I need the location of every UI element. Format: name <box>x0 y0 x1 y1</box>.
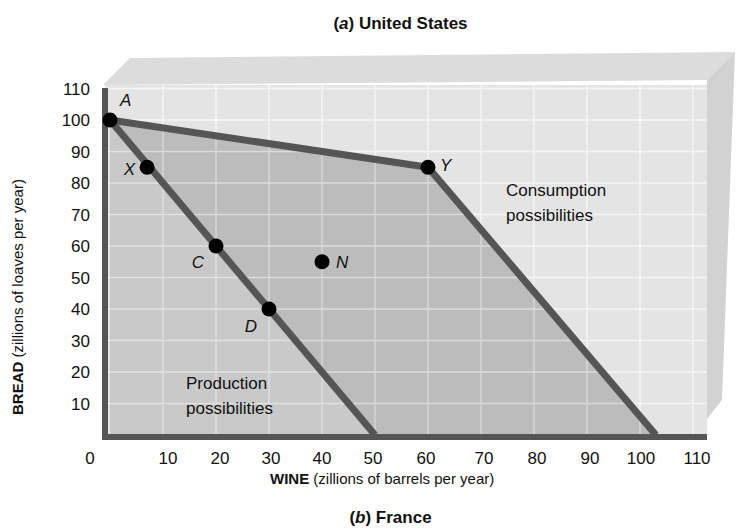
x-tick-label: 30 <box>262 449 281 468</box>
footer-title-text: France <box>376 508 432 527</box>
x-tick-label: 70 <box>475 449 494 468</box>
box-top-face <box>103 52 735 85</box>
y-tick-label: 80 <box>71 174 90 193</box>
y-tick-label: 100 <box>62 111 90 130</box>
point-label-x: X <box>123 160 136 179</box>
y-tick-label: 50 <box>71 269 90 288</box>
production-label-line2: possibilities <box>186 399 273 418</box>
x-tick-label: 110 <box>683 449 710 468</box>
point-label-y: Y <box>440 156 453 175</box>
x-tick-label: 0 <box>85 449 94 468</box>
x-tick-label: 40 <box>313 449 332 468</box>
point-d <box>262 302 277 317</box>
production-label: Production <box>186 374 267 393</box>
point-label-a: A <box>119 91 131 110</box>
point-label-d: D <box>245 317 257 336</box>
x-tick-label: 90 <box>581 449 600 468</box>
x-tick-label: 10 <box>159 449 178 468</box>
x-tick-label: 60 <box>417 449 436 468</box>
y-tick-label: 60 <box>71 237 90 256</box>
point-c <box>209 239 224 254</box>
consumption-label: Consumption <box>506 181 606 200</box>
y-tick-label: 90 <box>71 143 90 162</box>
y-tick-label: 110 <box>63 80 90 99</box>
point-label-c: C <box>192 253 205 272</box>
footer-title: (b) France <box>0 508 741 528</box>
y-tick-label: 40 <box>71 300 90 319</box>
consumption-label-line2: possibilities <box>506 206 593 225</box>
chart-plot: 1020304050607080901001100102030405060708… <box>0 0 741 531</box>
x-tick-label: 50 <box>364 449 383 468</box>
x-tick-label: 80 <box>528 449 547 468</box>
point-n <box>315 254 330 269</box>
x-tick-label: 100 <box>627 449 655 468</box>
y-tick-label: 70 <box>71 206 90 225</box>
y-tick-label: 30 <box>71 332 90 351</box>
y-tick-label: 10 <box>71 395 90 414</box>
y-tick-label: 20 <box>71 363 90 382</box>
point-label-n: N <box>336 253 349 272</box>
point-a <box>103 113 118 128</box>
y-axis-label: BREAD (zillions of loaves per year) <box>8 110 28 420</box>
point-x <box>140 160 155 175</box>
point-y <box>421 160 436 175</box>
x-axis-label: WINE (zillions of barrels per year) <box>270 470 494 487</box>
svg-text:BREAD (zillions of loaves per: BREAD (zillions of loaves per year) <box>9 179 26 415</box>
footer-title-prefix: b <box>355 508 365 527</box>
x-tick-label: 20 <box>211 449 230 468</box>
